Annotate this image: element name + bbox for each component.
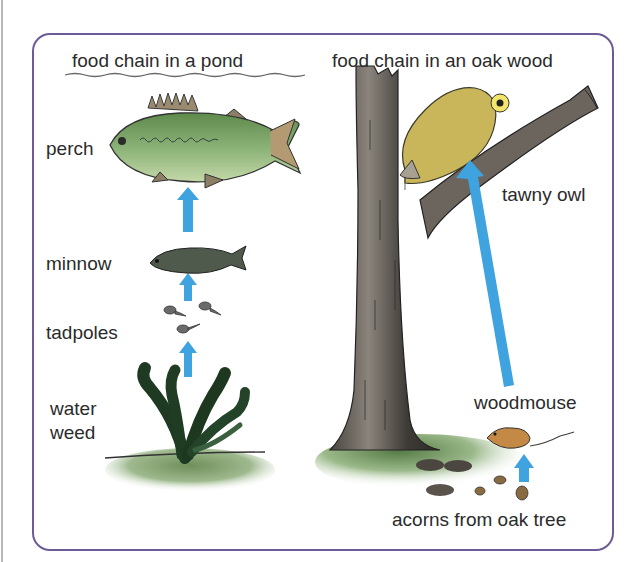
label-water-weed-line1: water [50, 398, 96, 420]
tadpoles-illustration [164, 302, 221, 333]
label-water-weed-line2: weed [50, 422, 95, 444]
water-weed-illustration [105, 368, 275, 492]
pond-arrows [177, 187, 199, 377]
minnow-illustration [150, 246, 246, 273]
illustration-layer [0, 0, 637, 562]
woodmouse-illustration [487, 428, 574, 449]
pond-title: food chain in a pond [72, 50, 243, 72]
label-perch: perch [46, 138, 94, 160]
label-minnow: minnow [46, 253, 111, 275]
perch-illustration [110, 93, 300, 188]
oak-wood-title: food chain in an oak wood [332, 50, 553, 72]
label-tadpoles: tadpoles [46, 322, 118, 344]
water-surface-line [65, 74, 305, 77]
label-acorns: acorns from oak tree [392, 509, 566, 531]
label-tawny-owl: tawny owl [502, 184, 585, 206]
label-woodmouse: woodmouse [474, 392, 576, 414]
